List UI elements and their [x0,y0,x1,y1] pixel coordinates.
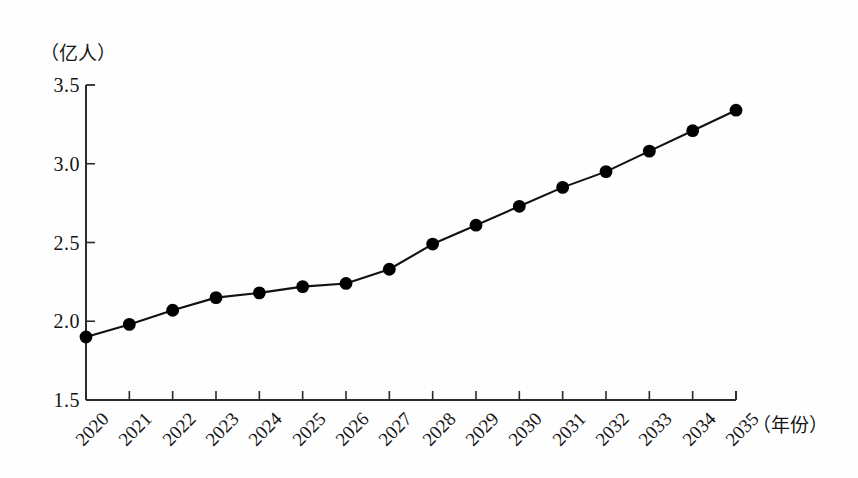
axis-lines [86,85,736,400]
data-point-marker [686,124,699,137]
data-point-marker [253,287,266,300]
data-point-marker [513,200,526,213]
plot-area [0,0,858,478]
data-point-marker [730,104,743,117]
axis-tick-marks [86,164,736,400]
data-point-marker [210,291,223,304]
data-point-marker [383,263,396,276]
data-point-marker [296,280,309,293]
data-point-marker [123,318,136,331]
line-chart: （亿人） （年份） 1.52.02.53.03.5 20202021202220… [0,0,858,478]
data-point-marker [470,219,483,232]
data-line [86,110,736,337]
data-point-marker [556,181,569,194]
data-point-marker [166,304,179,317]
data-point-marker [426,238,439,251]
data-point-marker [340,277,353,290]
data-point-marker [643,145,656,158]
data-point-marker [600,165,613,178]
data-point-marker [80,331,93,344]
